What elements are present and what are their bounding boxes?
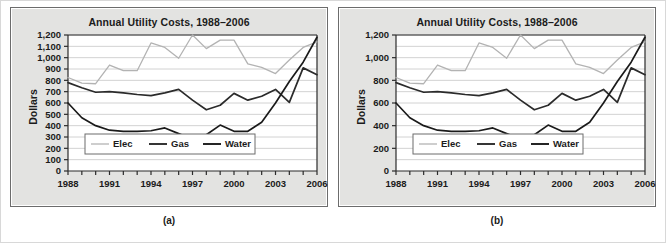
y-axis-tick-label: 800	[45, 75, 61, 86]
y-axis-tick-label: 1,200	[37, 29, 61, 40]
x-axis-tick-label: 1988	[57, 178, 78, 189]
y-axis-tick-label: 600	[45, 97, 61, 108]
panel-b-wrapper: Annual Utility Costs, 1988–2006 Dollars …	[337, 7, 657, 226]
y-axis-tick-label: 1,000	[37, 52, 61, 63]
x-axis-tick-label: 2000	[551, 178, 572, 189]
legend-label-water: Water	[225, 138, 251, 149]
y-axis-tick-label: 300	[45, 131, 61, 142]
x-axis-tick-label: 1991	[427, 178, 449, 189]
y-axis-tick-label: 200	[373, 143, 389, 154]
y-axis-tick-label: 900	[45, 63, 61, 74]
panel-caption-a: (a)	[163, 215, 175, 226]
x-axis-tick-label: 2003	[265, 178, 286, 189]
x-axis-tick-label: 1988	[385, 178, 406, 189]
y-axis-tick-label: 1,100	[37, 41, 61, 52]
x-axis-tick-label: 2006	[306, 178, 327, 189]
legend-label-elec: Elec	[113, 138, 133, 149]
y-axis-tick-label: 400	[45, 120, 61, 131]
chart-panel-b: Annual Utility Costs, 1988–2006 Dollars …	[338, 7, 656, 207]
x-axis-tick-label: 1997	[182, 178, 203, 189]
y-axis-tick-label: 800	[373, 75, 389, 86]
x-axis-tick-label: 2003	[593, 178, 614, 189]
y-axis-tick-label: 1,200	[365, 29, 389, 40]
chart-plot-b: 02004006008001,0001,20019881991199419972…	[339, 8, 657, 208]
legend-label-gas: Gas	[499, 138, 517, 149]
x-axis-tick-label: 2006	[634, 178, 655, 189]
chart-panel-a: Annual Utility Costs, 1988–2006 Dollars …	[10, 7, 328, 207]
x-axis-tick-label: 2000	[223, 178, 244, 189]
x-axis-tick-label: 1997	[510, 178, 531, 189]
panel-caption-b: (b)	[491, 215, 504, 226]
chart-plot-a: 01002003004005006007008009001,0001,1001,…	[11, 8, 329, 208]
legend-label-water: Water	[553, 138, 579, 149]
y-axis-tick-label: 200	[45, 143, 61, 154]
y-axis-tick-label: 700	[45, 86, 61, 97]
y-axis-tick-label: 0	[384, 165, 389, 176]
y-axis-tick-label: 500	[45, 109, 61, 120]
x-axis-tick-label: 1991	[99, 178, 121, 189]
panel-a-wrapper: Annual Utility Costs, 1988–2006 Dollars …	[9, 7, 329, 226]
figure-container: Annual Utility Costs, 1988–2006 Dollars …	[0, 0, 666, 243]
y-axis-tick-label: 600	[373, 97, 389, 108]
legend-label-elec: Elec	[441, 138, 461, 149]
x-axis-tick-label: 1994	[468, 178, 490, 189]
legend-label-gas: Gas	[171, 138, 189, 149]
y-axis-tick-label: 0	[56, 165, 61, 176]
x-axis-tick-label: 1994	[140, 178, 162, 189]
y-axis-tick-label: 100	[45, 154, 61, 165]
y-axis-tick-label: 1,000	[365, 52, 389, 63]
y-axis-tick-label: 400	[373, 120, 389, 131]
